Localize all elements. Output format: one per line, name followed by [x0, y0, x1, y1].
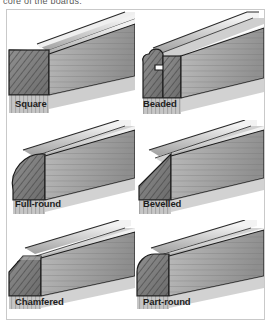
profile-cell-chamfered: Chamfered [7, 220, 135, 319]
caption-text: core of the boards. [3, 0, 82, 6]
profile-label-beaded: Beaded [143, 98, 177, 109]
profile-cell-part-round: Part-round [135, 220, 264, 319]
profile-label-full-round: Full-round [15, 198, 61, 209]
profile-cell-bevelled: Bevelled [135, 120, 264, 220]
profile-label-part-round: Part-round [143, 296, 191, 307]
caption-strip: core of the boards. [0, 0, 267, 9]
profile-grid: Square [7, 10, 264, 319]
figure-box: Square [6, 9, 265, 320]
profile-label-bevelled: Bevelled [143, 198, 181, 209]
profile-cell-full-round: Full-round [7, 120, 135, 220]
profile-label-square: Square [15, 98, 47, 109]
profile-label-chamfered: Chamfered [15, 296, 64, 307]
profile-cell-square: Square [7, 10, 135, 120]
figure-page: core of the boards. [0, 0, 267, 322]
profile-cell-beaded: Beaded [135, 10, 264, 120]
